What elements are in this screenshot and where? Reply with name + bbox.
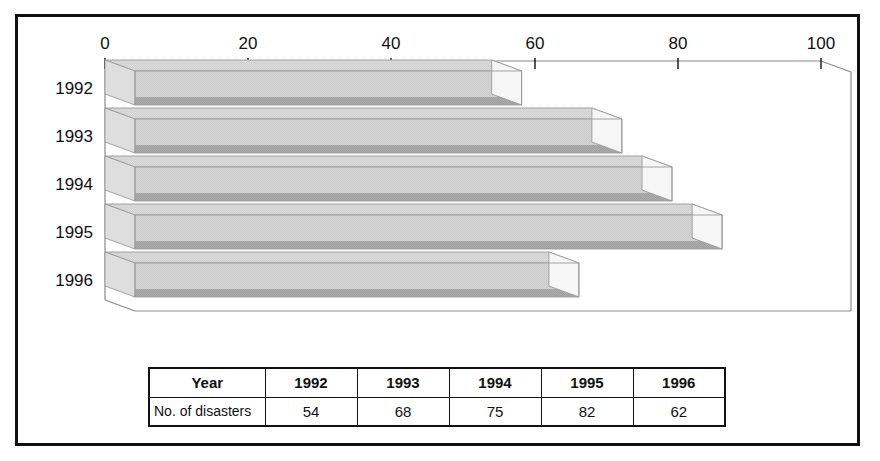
table-cell: 54 <box>265 397 357 426</box>
table-header-cell: 1995 <box>541 368 633 397</box>
figure-root: 0 20 40 60 80 100 19921993199419951996 Y… <box>0 0 880 461</box>
table-header-cell: 1994 <box>449 368 541 397</box>
table-header-row: Year 1992 1993 1994 1995 1996 <box>149 368 725 397</box>
table-header-cell: 1992 <box>265 368 357 397</box>
table-row: No. of disasters 54 68 75 82 62 <box>149 397 725 426</box>
table-cell: 62 <box>633 397 725 426</box>
table-cell: 75 <box>449 397 541 426</box>
table-row-label: No. of disasters <box>149 397 265 426</box>
table-cell: 82 <box>541 397 633 426</box>
table-header-cell: 1996 <box>633 368 725 397</box>
table-header-cell: 1993 <box>357 368 449 397</box>
table-header-rowhead: Year <box>149 368 265 397</box>
data-table: Year 1992 1993 1994 1995 1996 No. of dis… <box>148 367 726 427</box>
data-table-container: Year 1992 1993 1994 1995 1996 No. of dis… <box>148 367 726 427</box>
table-cell: 68 <box>357 397 449 426</box>
